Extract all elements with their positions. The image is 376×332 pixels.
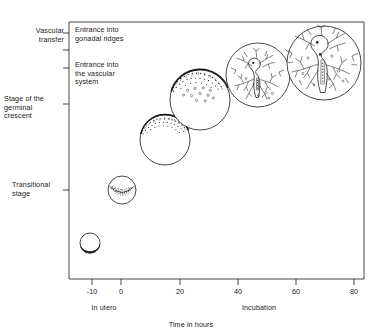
x-axis-tick-label-20: 20 bbox=[166, 287, 194, 296]
embryo-5-eye bbox=[252, 62, 254, 64]
x-axis-phase-in-utero: In utero bbox=[77, 303, 131, 312]
annotation-gonadal-ridges: Entrance into gonadal ridges bbox=[75, 26, 161, 43]
embryo-stage-5 bbox=[226, 43, 290, 107]
embryo-stage-1 bbox=[80, 233, 100, 253]
x-axis-tick-label-60: 60 bbox=[282, 287, 310, 296]
embryo-stage-4 bbox=[170, 69, 230, 130]
stage-label-germinal-crescent: Stage of the germinal crescent bbox=[4, 95, 64, 121]
embryo-stage-6 bbox=[286, 25, 361, 100]
x-axis-tick-label-40: 40 bbox=[224, 287, 252, 296]
x-axis-title: Time in hours bbox=[136, 320, 246, 329]
figure-container: Vascular transfer Stage of the germinal … bbox=[0, 0, 376, 332]
embryo-6-eye bbox=[316, 41, 319, 44]
x-axis-tick-label-0: 0 bbox=[107, 287, 135, 296]
stage-label-transitional-stage: Transitional stage bbox=[12, 181, 64, 198]
x-axis-tick-label--10: -10 bbox=[78, 287, 106, 296]
embryo-6-gonadal-ridge-marker bbox=[319, 53, 322, 56]
annotation-vascular-system: Entrance into the vascular system bbox=[75, 61, 161, 87]
stage-label-vascular-transfer: Vascular transfer bbox=[16, 27, 64, 44]
x-axis-ticks bbox=[92, 279, 354, 285]
x-axis-phase-incubation: Incubation bbox=[225, 303, 293, 312]
embryo-stage-2 bbox=[108, 176, 136, 204]
x-axis-tick-label-80: 80 bbox=[340, 287, 368, 296]
embryo-development-diagram bbox=[0, 0, 376, 332]
